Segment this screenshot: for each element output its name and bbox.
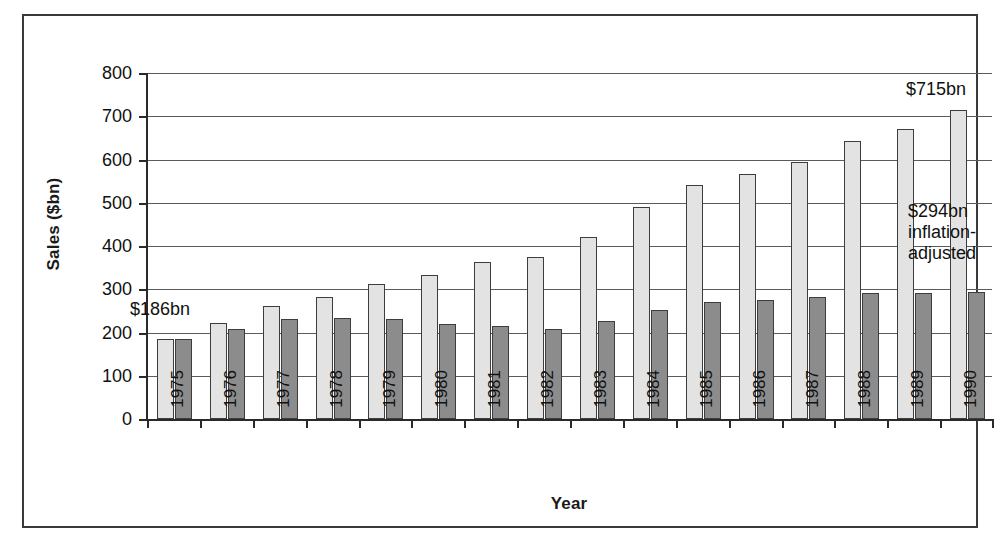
x-tick-label-1979: 1979 xyxy=(381,370,398,430)
x-tick-mark-1976 xyxy=(200,419,202,428)
y-tick-mark-300 xyxy=(139,289,148,291)
x-tick-label-1986: 1986 xyxy=(751,370,768,430)
x-tick-label-1978: 1978 xyxy=(328,370,345,430)
x-tick-label-1977: 1977 xyxy=(275,370,292,430)
y-tick-label-400: 400 xyxy=(80,237,132,255)
bar-group xyxy=(580,73,615,419)
plot-area xyxy=(146,73,992,419)
x-tick-label-1990: 1990 xyxy=(962,370,979,430)
x-tick-label-1975: 1975 xyxy=(169,370,186,430)
x-tick-mark-1989 xyxy=(887,419,889,428)
bar-group xyxy=(316,73,351,419)
x-tick-label-1982: 1982 xyxy=(539,370,556,430)
annotation-line-1: $294bn xyxy=(908,201,1004,222)
x-tick-mark-1984 xyxy=(623,419,625,428)
y-tick-mark-400 xyxy=(139,246,148,248)
y-tick-mark-700 xyxy=(139,116,148,118)
x-tick-mark-1988 xyxy=(834,419,836,428)
y-tick-mark-600 xyxy=(139,160,148,162)
x-tick-label-1981: 1981 xyxy=(486,370,503,430)
x-tick-mark-end xyxy=(992,419,994,428)
bar-group xyxy=(633,73,668,419)
annotation-last-bar-nominal-value: $715bn xyxy=(906,79,966,100)
x-tick-label-1983: 1983 xyxy=(592,370,609,430)
y-tick-mark-200 xyxy=(139,333,148,335)
bar-group xyxy=(368,73,403,419)
y-axis-title: Sales ($bn) xyxy=(44,134,64,314)
x-tick-label-1989: 1989 xyxy=(909,370,926,430)
x-tick-mark-1983 xyxy=(570,419,572,428)
y-tick-label-800: 800 xyxy=(80,64,132,82)
annotation-last-bar-adjusted-value: $294bn inflation- adjusted xyxy=(908,201,1004,265)
x-tick-mark-1986 xyxy=(729,419,731,428)
x-tick-label-1985: 1985 xyxy=(698,370,715,430)
y-tick-label-100: 100 xyxy=(80,367,132,385)
chart-figure: Sales ($bn) 0100200300400500600700800 19… xyxy=(0,0,1005,544)
chart-frame: Sales ($bn) 0100200300400500600700800 19… xyxy=(22,14,978,528)
x-tick-label-1980: 1980 xyxy=(433,370,450,430)
x-tick-mark-1985 xyxy=(676,419,678,428)
y-tick-label-200: 200 xyxy=(80,324,132,342)
y-tick-label-300: 300 xyxy=(80,280,132,298)
y-tick-mark-100 xyxy=(139,376,148,378)
bar-group xyxy=(421,73,456,419)
bar-group xyxy=(474,73,509,419)
x-tick-mark-1978 xyxy=(306,419,308,428)
y-tick-label-500: 500 xyxy=(80,194,132,212)
annotation-line-2: inflation- xyxy=(908,222,1004,243)
bar-group xyxy=(686,73,721,419)
x-tick-label-1988: 1988 xyxy=(856,370,873,430)
x-tick-label-1976: 1976 xyxy=(222,370,239,430)
y-tick-mark-800 xyxy=(139,73,148,75)
annotation-line-3: adjusted xyxy=(908,243,1004,264)
y-tick-label-0: 0 xyxy=(80,410,132,428)
bar-group xyxy=(527,73,562,419)
x-tick-mark-1980 xyxy=(411,419,413,428)
x-axis-title: Year xyxy=(146,494,992,514)
bar-group xyxy=(157,73,192,419)
bar-group xyxy=(210,73,245,419)
x-tick-mark-1982 xyxy=(517,419,519,428)
y-tick-label-600: 600 xyxy=(80,151,132,169)
x-tick-mark-1977 xyxy=(253,419,255,428)
x-tick-mark-1990 xyxy=(940,419,942,428)
x-tick-label-1984: 1984 xyxy=(645,370,662,430)
x-tick-mark-1987 xyxy=(782,419,784,428)
x-tick-label-1987: 1987 xyxy=(804,370,821,430)
bar-group xyxy=(844,73,879,419)
x-tick-mark-1975 xyxy=(147,419,149,428)
bar-group xyxy=(791,73,826,419)
x-tick-mark-1979 xyxy=(359,419,361,428)
y-tick-label-700: 700 xyxy=(80,107,132,125)
bar-group xyxy=(263,73,298,419)
bar-group xyxy=(739,73,774,419)
annotation-first-bar-value: $186bn xyxy=(130,299,190,320)
x-tick-mark-1981 xyxy=(464,419,466,428)
y-tick-mark-500 xyxy=(139,203,148,205)
